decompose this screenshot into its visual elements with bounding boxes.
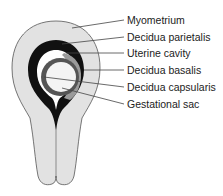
label-decidua-capsularis: Decidua capsularis [127, 81, 216, 93]
label-gestational-sac: Gestational sac [127, 98, 199, 110]
gestational-sac-shape [46, 62, 76, 92]
label-uterine-cavity: Uterine cavity [127, 47, 191, 59]
label-decidua-basalis: Decidua basalis [127, 64, 201, 76]
leader-myometrium [72, 20, 124, 28]
label-decidua-parietalis: Decidua parietalis [127, 31, 210, 43]
label-myometrium: Myometrium [127, 14, 185, 26]
